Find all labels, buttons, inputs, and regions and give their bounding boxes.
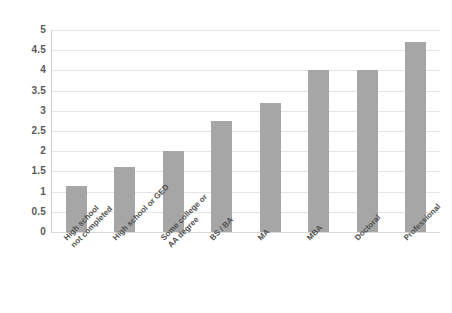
y-axis-tick-label: 2 [0, 146, 46, 156]
bar-chart: 00.511.522.533.544.55 High schoolnot com… [0, 0, 452, 313]
x-axis-tick-labels: High schoolnot completedHigh school or G… [52, 236, 452, 313]
bar [405, 42, 426, 232]
y-axis-tick-label: 1 [0, 187, 46, 197]
y-axis-tick-labels: 00.511.522.533.544.55 [0, 0, 46, 313]
bar [260, 103, 281, 232]
y-axis-tick-label: 4.5 [0, 45, 46, 55]
y-axis-tick-label: 0.5 [0, 207, 46, 217]
y-axis-tick-label: 3.5 [0, 86, 46, 96]
y-axis-tick-label: 1.5 [0, 166, 46, 176]
bar [308, 70, 329, 232]
bars-layer [52, 30, 440, 232]
y-axis-tick-label: 4 [0, 65, 46, 75]
y-axis-tick-label: 0 [0, 227, 46, 237]
bar [357, 70, 378, 232]
y-axis-tick-label: 5 [0, 25, 46, 35]
y-axis-tick-label: 2.5 [0, 126, 46, 136]
gridline [52, 232, 440, 233]
y-axis-tick-label: 3 [0, 106, 46, 116]
